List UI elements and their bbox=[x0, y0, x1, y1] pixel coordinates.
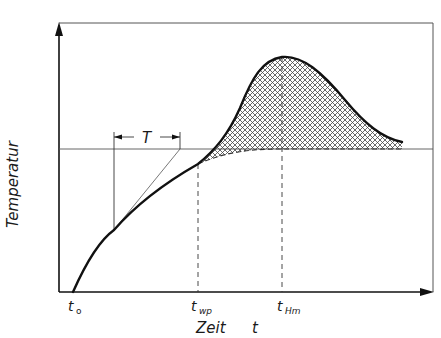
svg-text:o: o bbox=[76, 306, 82, 316]
y-axis bbox=[55, 22, 63, 292]
tick-twp: t wp bbox=[191, 298, 212, 316]
y-axis-arrow-icon bbox=[55, 22, 63, 36]
x-axis-symbol: t bbox=[252, 319, 259, 337]
temperature-curve bbox=[73, 57, 402, 292]
svg-text:Hm: Hm bbox=[285, 306, 301, 316]
time-constant-construction: T bbox=[114, 129, 180, 230]
svg-text:wp: wp bbox=[199, 306, 212, 316]
svg-text:t: t bbox=[277, 298, 283, 314]
x-axis-label: Zeit bbox=[195, 319, 227, 337]
tick-thm: t Hm bbox=[277, 298, 301, 316]
x-axis-arrow-icon bbox=[420, 288, 434, 296]
interval-label: T bbox=[142, 129, 153, 147]
svg-text:t: t bbox=[191, 298, 197, 314]
svg-text:t: t bbox=[68, 298, 74, 314]
x-axis bbox=[59, 288, 434, 296]
hatched-area bbox=[198, 57, 402, 164]
y-axis-label: Temperatur bbox=[4, 140, 22, 228]
diagram-canvas: T t o t wp t Hm Zeit t Temperatur bbox=[0, 0, 441, 338]
tick-t0: t o bbox=[68, 298, 82, 316]
dimension-arrow-right-icon bbox=[172, 135, 180, 140]
dimension-arrow-left-icon bbox=[114, 135, 122, 140]
